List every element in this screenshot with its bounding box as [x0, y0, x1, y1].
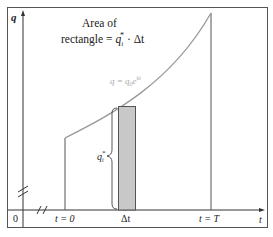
dt-label: Δt — [121, 213, 130, 224]
annotation-line1: Area of — [82, 17, 117, 29]
origin-label: 0 — [13, 213, 18, 224]
exponential-area-diagram: q t 0 t = 0 Δt t = T Area of rectangle =… — [0, 0, 273, 237]
tT-label: t = T — [199, 213, 221, 224]
t0-label: t = 0 — [55, 213, 75, 224]
area-rectangle — [119, 107, 136, 211]
y-axis-label: q — [11, 11, 17, 23]
curve-label: q = q0ekt — [110, 75, 141, 87]
x-axis-label: t — [259, 214, 262, 225]
